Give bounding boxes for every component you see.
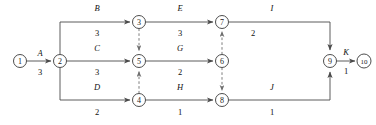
node-5-label: 5 (137, 57, 141, 66)
edge-K-name: K (343, 47, 349, 57)
node-2[interactable]: 2 (54, 55, 67, 68)
node-1-label: 1 (18, 57, 22, 66)
node-7[interactable]: 7 (216, 16, 229, 29)
node-1[interactable]: 1 (14, 55, 27, 68)
edge-G-duration: 2 (178, 67, 182, 77)
node-4[interactable]: 4 (133, 94, 146, 107)
edge-A-duration: 3 (38, 67, 42, 77)
node-8[interactable]: 8 (216, 94, 229, 107)
node-8-label: 8 (220, 96, 224, 105)
edge-D-duration: 2 (95, 107, 99, 117)
node-9[interactable]: 9 (324, 55, 337, 68)
node-10-label: 10 (361, 58, 369, 66)
node-6[interactable]: 6 (216, 55, 229, 68)
edge-I-duration: 2 (251, 28, 255, 38)
node-2-label: 2 (58, 57, 62, 66)
edges-layer (27, 22, 356, 100)
edge-D-name: D (94, 82, 100, 92)
edge-A-name: A (37, 48, 42, 58)
edge-J[interactable] (229, 72, 331, 100)
edge-H-duration: 1 (178, 107, 182, 117)
edge-B-name: B (94, 3, 99, 13)
node-6-label: 6 (220, 57, 224, 66)
node-10[interactable]: 10 (357, 54, 371, 68)
network-diagram-canvas: 1 2 3 4 5 6 7 (0, 0, 376, 125)
network-diagram-svg: 1 2 3 4 5 6 7 (0, 0, 376, 125)
node-7-label: 7 (220, 18, 224, 27)
edge-G-name: G (177, 43, 183, 53)
edge-J-name: J (270, 82, 274, 92)
node-9-label: 9 (328, 57, 332, 66)
edge-E-duration: 3 (178, 28, 182, 38)
node-3-label: 3 (137, 18, 141, 27)
edge-C-name: C (94, 43, 100, 53)
edge-B-duration: 3 (95, 28, 99, 38)
node-3[interactable]: 3 (133, 16, 146, 29)
node-5[interactable]: 5 (133, 55, 146, 68)
edge-I-name: I (271, 3, 274, 13)
edge-K-duration: 1 (344, 66, 348, 76)
edge-J-duration: 1 (270, 107, 274, 117)
edge-I[interactable] (229, 22, 331, 50)
edge-E-name: E (177, 3, 182, 13)
node-4-label: 4 (137, 96, 141, 105)
edge-H-name: H (177, 82, 183, 92)
edge-C-duration: 3 (95, 67, 99, 77)
